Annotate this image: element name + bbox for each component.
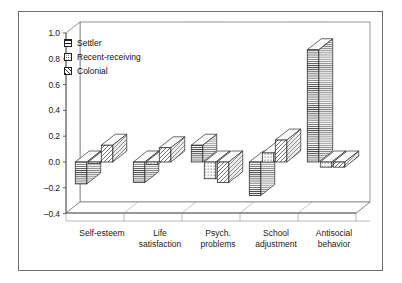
legend-swatch-diagonal-hatch-icon <box>64 67 72 75</box>
y-tick-label: –0.4 <box>26 209 60 219</box>
y-tick-label: 1.0 <box>26 28 60 38</box>
x-category-label: Antisocialbehavior <box>305 228 363 249</box>
legend-item-colonial[interactable]: Colonial <box>64 64 141 77</box>
y-tick-label: 0.2 <box>26 131 60 141</box>
legend-swatch-horizontal-lines-icon <box>64 39 72 47</box>
y-tick-label: 0.4 <box>26 105 60 115</box>
y-tick-label: –0.2 <box>26 183 60 193</box>
legend-swatch-cross-dots-icon <box>64 53 72 61</box>
chart-legend: Settler Recent-receiving Colonial <box>64 36 141 78</box>
x-category-label: Psych.problems <box>189 228 247 249</box>
legend-label: Recent-receiving <box>77 52 141 62</box>
chart-stage: 1.00.80.60.40.20.0–0.2–0.4 Self-esteemLi… <box>0 0 402 283</box>
x-category-label: Lifesatisfaction <box>131 228 189 249</box>
legend-item-settler[interactable]: Settler <box>64 36 141 49</box>
legend-label: Settler <box>77 38 102 48</box>
y-tick-label: 0.8 <box>26 54 60 64</box>
legend-label: Colonial <box>77 66 108 76</box>
y-tick-label: 0.6 <box>26 80 60 90</box>
legend-item-recent-receiving[interactable]: Recent-receiving <box>64 50 141 63</box>
bar-antisocial-behavior-settler <box>307 39 333 162</box>
x-category-label: Self-esteem <box>73 228 131 239</box>
y-tick-label: 0.0 <box>26 157 60 167</box>
x-category-label: Schooladjustment <box>247 228 305 249</box>
